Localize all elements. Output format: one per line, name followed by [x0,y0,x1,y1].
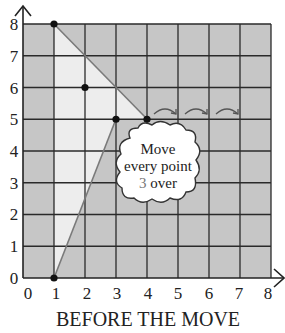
x-tick: 3 [113,284,122,303]
y-tick: 8 [10,15,19,34]
diagram-canvas: Move every point 3 over 0 1 2 3 4 5 6 7 … [0,0,285,333]
move-amount: 3 [139,175,147,191]
x-tick: 1 [52,284,61,303]
x-tick-labels: 0 1 2 3 4 5 6 7 8 [24,284,273,303]
diagram-caption: BEFORE THE MOVE [56,308,240,330]
cloud-line-1: Move [141,141,176,157]
y-tick: 5 [10,110,19,129]
y-tick: 0 [10,269,19,288]
point-3-5 [112,116,119,123]
x-tick: 5 [174,284,183,303]
point-2-6 [81,84,88,91]
y-tick: 6 [10,79,19,98]
y-tick: 3 [10,174,19,193]
point-4-5 [143,116,150,123]
thought-cloud: Move every point 3 over [116,122,200,203]
y-tick: 2 [10,205,19,224]
x-tick: 8 [264,284,273,303]
x-tick: 6 [205,284,214,303]
cloud-line-2: every point [124,158,193,174]
x-tick: 7 [235,284,244,303]
x-tick: 2 [83,284,92,303]
y-tick: 7 [10,47,19,66]
point-1-0 [50,274,57,281]
x-tick: 0 [24,284,33,303]
y-tick-labels: 0 1 2 3 4 5 6 7 8 [10,15,19,288]
cloud-line-3: 3 over [139,175,177,191]
y-tick: 1 [10,237,19,256]
x-tick: 4 [144,284,153,303]
y-tick: 4 [10,142,19,161]
point-1-8 [50,20,57,27]
cloud-line-3-rest: over [147,175,177,191]
